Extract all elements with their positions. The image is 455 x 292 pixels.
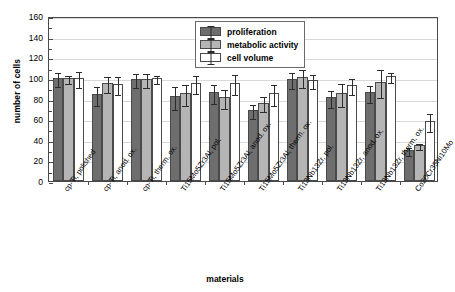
error-bar-cap-bottom <box>388 83 394 84</box>
y-axis-tick-minor <box>49 70 52 71</box>
bar <box>326 97 336 181</box>
error-bar-cap-bottom <box>143 88 149 89</box>
y-axis-tick-label: 0 <box>5 177 43 187</box>
error-bar-cap-bottom <box>94 106 100 107</box>
y-axis-tick-minor <box>49 28 52 29</box>
error-bar-cap-bottom <box>328 108 334 109</box>
error-bar-cap-bottom <box>154 84 160 85</box>
legend-swatch-metabolic-activity <box>200 40 221 49</box>
error-bar-cap-top <box>289 73 295 74</box>
error-bar-cap-top <box>193 76 199 77</box>
error-bar-cap-bottom <box>250 119 256 120</box>
y-axis-tick-minor <box>49 131 52 132</box>
x-axis-title: materials <box>45 274 405 284</box>
y-axis-tick-label: 60 <box>5 115 43 125</box>
error-bar-cap-top <box>172 87 178 88</box>
error-bar-cap-bottom <box>193 94 199 95</box>
error-bar <box>303 70 304 89</box>
x-axis-tick <box>205 181 206 185</box>
error-bar <box>225 90 226 109</box>
error-bar <box>147 74 148 88</box>
error-bar-cap-top <box>211 85 217 86</box>
x-axis-tick <box>244 181 245 185</box>
y-axis-tick-label: 80 <box>5 95 43 105</box>
error-bar <box>264 97 265 111</box>
bar <box>102 83 112 181</box>
error-bar-cap-top <box>143 74 149 75</box>
error-bar-cap-bottom <box>427 132 433 133</box>
error-bar-cap-bottom <box>416 150 422 151</box>
error-bar-cap-bottom <box>310 89 316 90</box>
x-axis-tick <box>361 181 362 185</box>
error-bar-cap-top <box>154 76 160 77</box>
error-bar-cap-top <box>55 73 61 74</box>
error-bar-cap-bottom <box>338 107 344 108</box>
legend-item-metabolic-activity: metabolic activity <box>200 38 298 51</box>
error-bar-cap-top <box>182 85 188 86</box>
error-bar-cap-top <box>338 84 344 85</box>
error-bar <box>331 91 332 108</box>
error-bar-cap-top <box>427 114 433 115</box>
error-bar-cap-top <box>310 75 316 76</box>
error-bar-cap-bottom <box>271 106 277 107</box>
x-axis-tick <box>166 181 167 185</box>
y-axis-tick-minor <box>49 49 52 50</box>
error-bar-cap-bottom <box>55 87 61 88</box>
y-axis-tick <box>49 59 53 60</box>
error-bar-cap-bottom <box>349 95 355 96</box>
error-bar-cap-bottom <box>172 110 178 111</box>
error-bar <box>253 105 254 119</box>
bar <box>53 78 63 181</box>
error-bar-cap-top <box>416 144 422 145</box>
y-axis-tick-minor <box>49 111 52 112</box>
legend-swatch-proliferation <box>200 27 221 36</box>
error-bar-cap-bottom <box>232 95 238 96</box>
error-bar <box>342 84 343 107</box>
error-bar-cap-top <box>94 87 100 88</box>
x-axis-tick <box>88 181 89 185</box>
error-bar <box>175 87 176 110</box>
bar <box>287 79 297 181</box>
error-bar-cap-bottom <box>182 106 188 107</box>
error-bar-cap-bottom <box>115 95 121 96</box>
error-bar <box>196 76 197 95</box>
bar <box>92 94 102 181</box>
error-bar-cap-bottom <box>221 109 227 110</box>
error-bar <box>292 73 293 90</box>
error-bar <box>108 77 109 94</box>
legend-label-cell-volume: cell volume <box>227 53 273 63</box>
y-axis-tick-minor <box>49 173 52 174</box>
legend-item-proliferation: proliferation <box>200 25 298 38</box>
error-bar-cap-top <box>133 74 139 75</box>
error-bar <box>157 76 158 84</box>
bar <box>141 79 151 181</box>
error-bar <box>370 86 371 103</box>
gridline <box>49 18 437 19</box>
legend-label-metabolic-activity: metabolic activity <box>227 40 298 50</box>
x-axis-tick <box>400 181 401 185</box>
y-axis-tick-minor <box>49 90 52 91</box>
error-bar <box>69 76 70 84</box>
error-bar-cap-top <box>221 90 227 91</box>
error-bar <box>118 77 119 96</box>
error-bar-cap-top <box>104 77 110 78</box>
error-bar <box>58 73 59 87</box>
x-axis-tick <box>127 181 128 185</box>
y-axis-tick-label: 20 <box>5 156 43 166</box>
error-bar-cap-bottom <box>104 93 110 94</box>
error-bar-cap-top <box>65 76 71 77</box>
bar <box>63 78 73 181</box>
x-axis-tick <box>283 181 284 185</box>
y-axis-tick-label: 40 <box>5 136 43 146</box>
error-bar-cap-top <box>250 105 256 106</box>
error-bar <box>136 74 137 88</box>
error-bar-cap-top <box>349 79 355 80</box>
error-bar <box>430 114 431 133</box>
error-bar-cap-top <box>76 72 82 73</box>
error-bar-cap-bottom <box>289 89 295 90</box>
error-bar-cap-bottom <box>377 98 383 99</box>
x-axis-tick <box>322 181 323 185</box>
error-bar-cap-top <box>260 97 266 98</box>
error-bar-cap-bottom <box>299 88 305 89</box>
error-bar-cap-bottom <box>260 112 266 113</box>
